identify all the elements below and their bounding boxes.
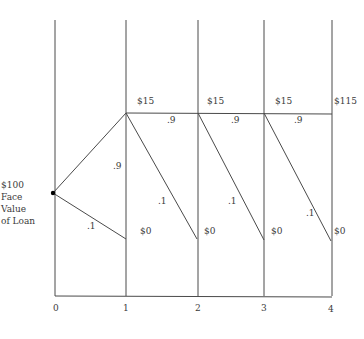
branch-3-default xyxy=(264,113,331,241)
start-label-line: $100 xyxy=(1,179,35,191)
time-axis xyxy=(55,296,332,297)
time-tick-2: 2 xyxy=(195,304,201,313)
default-payoff-2: $0 xyxy=(204,227,215,236)
tree-lines xyxy=(0,0,364,339)
payment-label-2: $15 xyxy=(207,97,224,106)
start-label-line: of Loan xyxy=(1,215,35,227)
prob-default-0: .1 xyxy=(87,222,96,231)
loan-default-tree-diagram: $100 Face Value of Loan $15 $15 $15 $115… xyxy=(0,0,364,339)
prob-default-2: .1 xyxy=(228,197,237,206)
start-label: $100 Face Value of Loan xyxy=(1,179,35,227)
no-default-path xyxy=(126,113,332,114)
time-tick-3: 3 xyxy=(261,304,267,313)
payment-label-1: $15 xyxy=(137,97,154,106)
start-node xyxy=(51,191,55,195)
prob-continue-1: .9 xyxy=(167,116,176,125)
prob-continue-2: .9 xyxy=(231,116,240,125)
branch-1-default xyxy=(126,113,197,239)
time-tick-1: 1 xyxy=(123,304,129,313)
time-tick-0: 0 xyxy=(53,304,59,313)
payment-label-3: $15 xyxy=(275,97,292,106)
payment-label-4: $115 xyxy=(334,97,357,106)
start-label-line: Face xyxy=(1,191,35,203)
default-payoff-1: $0 xyxy=(140,227,151,236)
default-payoff-3: $0 xyxy=(271,227,282,236)
branch-2-default xyxy=(198,113,264,240)
time-tick-4: 4 xyxy=(328,305,334,314)
branch-0-down xyxy=(53,193,126,239)
prob-continue-3: .9 xyxy=(294,116,303,125)
prob-continue-0: .9 xyxy=(113,162,122,171)
prob-default-3: .1 xyxy=(306,209,315,218)
branch-0-up xyxy=(53,113,126,193)
default-payoff-4: $0 xyxy=(334,227,345,236)
prob-default-1: .1 xyxy=(158,197,167,206)
start-label-line: Value xyxy=(1,203,35,215)
